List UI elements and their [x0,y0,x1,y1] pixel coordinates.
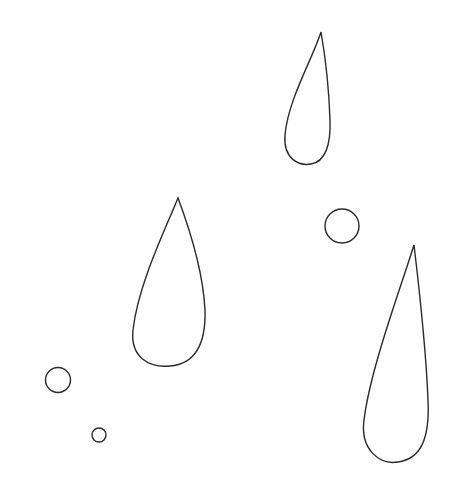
raindrops-group [133,32,429,462]
raindrop-upper-right-icon [285,32,330,164]
bubble-left-icon [46,368,71,393]
raindrop-middle-left-icon [133,198,205,366]
raindrop-lower-right-icon [363,245,428,462]
bubble-tiny-icon [92,428,106,442]
raindrops-illustration [0,0,455,500]
bubbles-group [46,209,360,442]
bubble-right-icon [325,209,359,243]
